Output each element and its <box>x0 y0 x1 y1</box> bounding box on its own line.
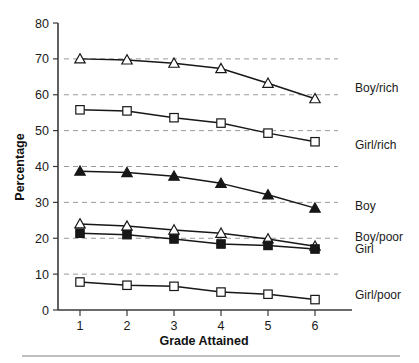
data-point-marker <box>217 119 225 127</box>
y-tick-label: 70 <box>35 52 49 66</box>
series-girl-poor <box>76 278 319 304</box>
x-tick-label: 1 <box>77 319 84 333</box>
series-label-girl: Girl <box>355 242 374 256</box>
line-chart-canvas: 01020304050607080123456Grade AttainedPer… <box>0 0 419 363</box>
chart-screenshot: 01020304050607080123456Grade AttainedPer… <box>0 0 419 363</box>
series-line <box>80 171 315 208</box>
data-point-marker <box>123 281 131 289</box>
data-point-marker <box>311 245 319 253</box>
data-point-marker <box>311 138 319 146</box>
x-tick-label: 4 <box>218 319 225 333</box>
y-tick-label: 80 <box>35 17 49 31</box>
x-tick-label: 2 <box>124 319 131 333</box>
data-point-marker <box>264 290 272 298</box>
series-label-boy-rich: Boy/rich <box>355 81 398 95</box>
series-label-girl-poor: Girl/poor <box>355 288 401 302</box>
chart-figure: 01020304050607080123456Grade AttainedPer… <box>0 0 419 363</box>
series-boy-rich <box>75 54 320 103</box>
data-point-marker <box>76 106 84 114</box>
data-point-marker <box>123 230 131 238</box>
data-point-marker <box>264 129 272 137</box>
series-line <box>80 110 315 142</box>
series-girl-rich <box>76 106 319 146</box>
series-line <box>80 59 315 99</box>
data-point-marker <box>217 288 225 296</box>
y-tick-label: 20 <box>35 232 49 246</box>
x-axis-title: Grade Attained <box>159 334 248 348</box>
y-tick-label: 10 <box>35 268 49 282</box>
data-point-marker <box>311 295 319 303</box>
data-point-marker <box>123 107 131 115</box>
x-tick-label: 5 <box>265 319 272 333</box>
x-tick-label: 6 <box>312 319 319 333</box>
series-line <box>80 282 315 300</box>
y-tick-label: 0 <box>42 304 49 318</box>
series-boy <box>75 166 320 212</box>
y-tick-label: 30 <box>35 196 49 210</box>
data-point-marker <box>76 278 84 286</box>
series-label-girl-rich: Girl/rich <box>355 138 396 152</box>
data-point-marker <box>170 235 178 243</box>
data-point-marker <box>170 114 178 122</box>
x-tick-label: 3 <box>171 319 178 333</box>
series-label-boy: Boy <box>355 199 376 213</box>
data-point-marker <box>170 282 178 290</box>
data-point-marker <box>217 240 225 248</box>
data-point-marker <box>76 229 84 237</box>
y-tick-label: 40 <box>35 160 49 174</box>
y-tick-label: 50 <box>35 124 49 138</box>
y-tick-label: 60 <box>35 88 49 102</box>
y-axis-title: Percentage <box>13 133 27 200</box>
data-point-marker <box>264 241 272 249</box>
